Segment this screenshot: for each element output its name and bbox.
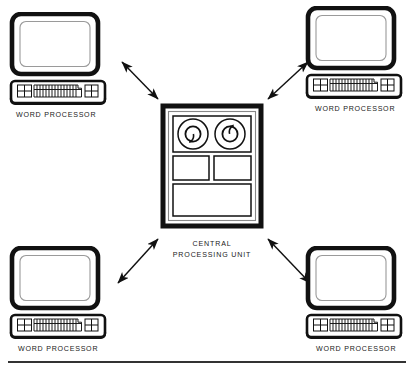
- word-processor-top-right-icon[interactable]: [307, 8, 401, 98]
- central-processing-unit-label: CENTRAL PROCESSING UNIT: [160, 239, 264, 261]
- word-processor-top-left-label: WORD PROCESSOR: [16, 111, 96, 119]
- word-processor-bottom-left-label: WORD PROCESSOR: [18, 345, 98, 353]
- cpu-label-line-1: CENTRAL: [160, 239, 264, 250]
- diagram-graphics: [0, 0, 414, 370]
- word-processor-bottom-right-label: WORD PROCESSOR: [316, 345, 396, 353]
- word-processor-bottom-right-icon[interactable]: [307, 248, 401, 338]
- word-processor-top-right-label: WORD PROCESSOR: [315, 105, 395, 113]
- link-top-left[interactable]: [122, 62, 158, 99]
- word-processor-bottom-left-icon[interactable]: [11, 248, 105, 338]
- diagram-canvas: WORD PROCESSOR WORD PROCESSOR WORD PROCE…: [0, 0, 414, 370]
- cpu-label-line-2: PROCESSING UNIT: [160, 250, 264, 261]
- link-top-right[interactable]: [268, 62, 308, 99]
- link-bottom-left[interactable]: [118, 239, 158, 283]
- central-processing-unit-icon[interactable]: [163, 106, 261, 226]
- link-bottom-right[interactable]: [268, 239, 310, 283]
- word-processor-top-left-icon[interactable]: [11, 14, 105, 104]
